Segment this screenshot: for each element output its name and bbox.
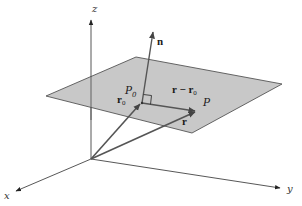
- x-axis: [16, 159, 91, 191]
- vector-r-label: r: [182, 115, 187, 127]
- normal-vector-label: n: [157, 35, 163, 47]
- plane-normal-vector-diagram: z x y n P0 r0 r − r0 P r: [0, 0, 302, 206]
- x-axis-label: x: [4, 190, 10, 201]
- point-p-label: P: [202, 96, 211, 108]
- point-p0: [141, 102, 143, 104]
- plane: [46, 57, 282, 133]
- y-axis-label: y: [286, 183, 293, 194]
- z-axis-label: z: [91, 3, 98, 14]
- y-axis: [91, 159, 280, 188]
